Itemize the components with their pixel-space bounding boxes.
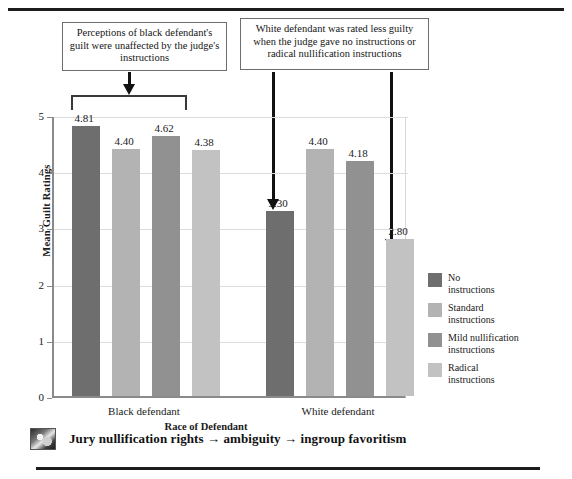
legend-swatch-icon [428, 333, 442, 347]
legend-label-line1: No [448, 272, 495, 284]
y-tick-mark [47, 173, 52, 174]
legend-label-line2: instructions [448, 314, 495, 326]
legend-item[interactable]: Mild nullificationinstructions [428, 332, 560, 355]
bar-value-label: 3.30 [256, 197, 300, 209]
legend-item[interactable]: Radicalinstructions [428, 362, 560, 385]
bar-value-label: 4.40 [296, 135, 340, 147]
annotation-box-black-defendant: Perceptions of black defendant's guilt w… [62, 22, 227, 71]
bar [72, 126, 100, 396]
legend-item-label: Standardinstructions [448, 302, 495, 325]
y-tick-mark [47, 398, 52, 399]
bar [386, 239, 414, 396]
y-tick-label: 1 [18, 335, 44, 347]
legend-item[interactable]: Noinstructions [428, 272, 560, 295]
bottom-divider [36, 467, 540, 470]
y-tick-label: 0 [18, 391, 44, 403]
legend-label-line1: Standard [448, 302, 495, 314]
legend: NoinstructionsStandardinstructionsMild n… [428, 272, 560, 392]
legend-label-line2: instructions [448, 284, 495, 296]
top-divider [8, 8, 564, 11]
bar [306, 149, 334, 396]
y-tick-label: 3 [18, 222, 44, 234]
legend-item[interactable]: Standardinstructions [428, 302, 560, 325]
bar-value-label: 4.81 [62, 112, 106, 124]
y-axis-label: Mean Guilt Ratings [41, 141, 52, 281]
y-tick-mark [47, 229, 52, 230]
annotation-box-white-defendant: White defendant was rated less guilty wh… [240, 18, 429, 70]
bar [152, 136, 180, 396]
bar-value-label: 4.18 [336, 147, 380, 159]
bar [112, 149, 140, 396]
bar-value-label: 4.62 [142, 122, 186, 134]
y-tick-mark [47, 286, 52, 287]
legend-swatch-icon [428, 363, 442, 377]
plot-area [52, 117, 406, 398]
legend-label-line2: instructions [448, 374, 495, 386]
bar-value-label: 4.40 [102, 135, 146, 147]
group-bracket-black-defendant [71, 95, 187, 110]
photo-thumbnail-icon [30, 428, 56, 450]
figure-root: Perceptions of black defendant's guilt w… [0, 0, 572, 479]
bar [266, 211, 294, 396]
y-tick-label: 2 [18, 279, 44, 291]
x-category-label: White defendant [258, 405, 418, 417]
footer-caption: Jury nullification rights → ambiguity → … [69, 431, 406, 447]
bar [346, 161, 374, 396]
y-tick-label: 5 [18, 110, 44, 122]
legend-item-label: Noinstructions [448, 272, 495, 295]
annotation-arrow-left [122, 72, 136, 94]
bar [192, 150, 220, 396]
x-category-label: Black defendant [64, 405, 224, 417]
gridline [54, 117, 408, 118]
bar-value-label: 2.80 [376, 225, 420, 237]
legend-label-line2: instructions [448, 344, 519, 356]
y-tick-mark [47, 117, 52, 118]
y-tick-label: 4 [18, 166, 44, 178]
footer: Jury nullification rights → ambiguity → … [30, 428, 406, 450]
legend-label-line1: Mild nullification [448, 332, 519, 344]
legend-item-label: Mild nullificationinstructions [448, 332, 519, 355]
legend-swatch-icon [428, 303, 442, 317]
y-tick-mark [47, 342, 52, 343]
bar-value-label: 4.38 [182, 136, 226, 148]
legend-label-line1: Radical [448, 362, 495, 374]
legend-swatch-icon [428, 273, 442, 287]
legend-item-label: Radicalinstructions [448, 362, 495, 385]
